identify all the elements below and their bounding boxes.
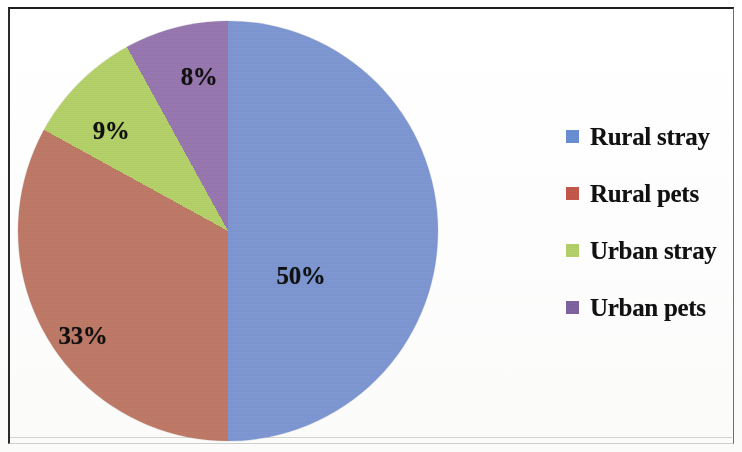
legend-color-swatch-icon [566, 130, 579, 143]
legend-item-rural-stray: Rural stray [566, 108, 742, 165]
legend-item-urban-pets: Urban pets [566, 279, 742, 336]
pie-slices [18, 21, 438, 441]
legend-item-label: Urban stray [590, 238, 717, 263]
slice-value-label: 9% [93, 117, 130, 145]
legend-item-rural-pets: Rural pets [566, 165, 742, 222]
legend-item-label: Urban pets [590, 295, 706, 320]
legend-item-label: Rural stray [590, 124, 710, 149]
pie-graphic: 50% 33% 9% 8% [18, 21, 438, 441]
legend-item-label: Rural pets [590, 181, 699, 206]
legend-item-urban-stray: Urban stray [566, 222, 742, 279]
legend-color-swatch-icon [566, 244, 579, 257]
slice-value-label: 33% [59, 322, 108, 350]
slice-value-label: 8% [181, 63, 218, 91]
pie-chart-screenshot: 50% 33% 9% 8% Rural stray Rural pets Urb… [0, 0, 742, 452]
chart-legend: Rural stray Rural pets Urban stray Urban… [566, 108, 742, 336]
chart-plot-area: 50% 33% 9% 8% [10, 9, 555, 442]
slice-value-label: 50% [277, 262, 326, 290]
legend-color-swatch-icon [566, 301, 579, 314]
legend-color-swatch-icon [566, 187, 579, 200]
